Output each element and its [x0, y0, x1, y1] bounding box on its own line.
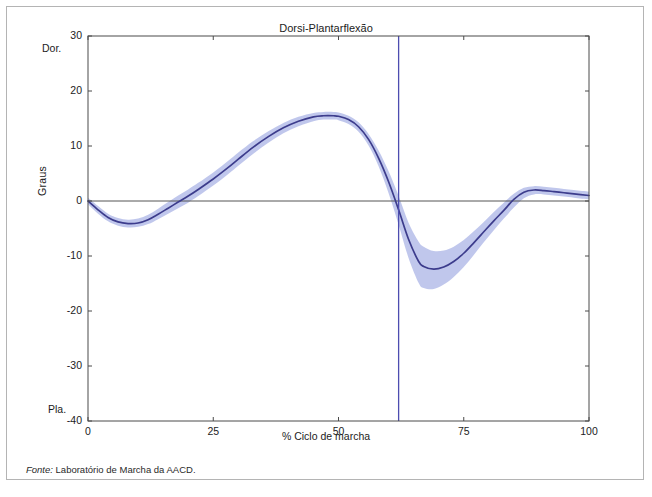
x-tick-label: 75 [444, 425, 484, 437]
chart-plot [0, 0, 652, 497]
y-axis-label: Graus [36, 166, 48, 196]
source-note-text: Laboratório de Marcha da AACD. [53, 464, 196, 475]
x-tick-label: 0 [68, 425, 108, 437]
x-tick-label: 100 [569, 425, 609, 437]
y-tick-label: 20 [42, 84, 82, 96]
y-tick-label: -10 [42, 249, 82, 261]
figure-container: Dorsi-Plantarflexão Dor. Pla. Graus % Ci… [0, 0, 652, 497]
y-tick-label: 30 [42, 29, 82, 41]
source-note-prefix: Fonte: [26, 464, 53, 475]
y-tick-label: -30 [42, 359, 82, 371]
y-tick-label: -20 [42, 304, 82, 316]
source-note: Fonte: Laboratório de Marcha da AACD. [26, 464, 196, 475]
y-axis-top-annotation: Dor. [42, 42, 61, 54]
chart-title: Dorsi-Plantarflexão [0, 22, 652, 34]
plot-axes-frame [88, 36, 589, 421]
mean-curve [88, 116, 589, 270]
x-tick-label: 25 [193, 425, 233, 437]
y-tick-label: 0 [42, 194, 82, 206]
x-tick-label: 50 [319, 425, 359, 437]
y-tick-label: 10 [42, 139, 82, 151]
